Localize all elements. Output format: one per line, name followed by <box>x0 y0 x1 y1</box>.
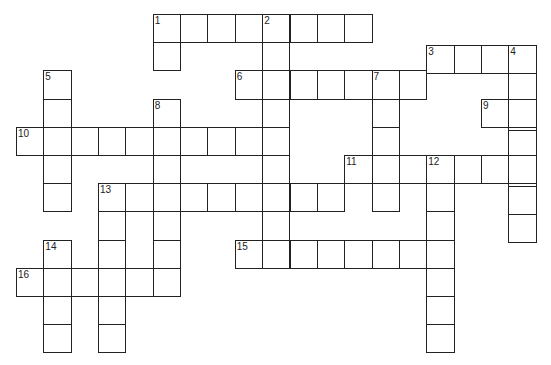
crossword-cell[interactable] <box>98 211 126 240</box>
crossword-cell[interactable] <box>98 127 126 156</box>
clue-number: 12 <box>428 156 439 168</box>
clue-number: 5 <box>45 71 51 83</box>
crossword-cell[interactable] <box>372 240 400 269</box>
clue-number: 8 <box>155 100 161 112</box>
clue-number: 6 <box>237 71 243 83</box>
clue-number: 16 <box>18 269 29 281</box>
crossword-cell[interactable] <box>235 183 263 212</box>
crossword-cell[interactable] <box>426 211 454 240</box>
clue-number: 11 <box>346 156 356 168</box>
crossword-cell[interactable] <box>207 183 235 212</box>
crossword-cell[interactable] <box>399 70 427 99</box>
crossword-cell[interactable] <box>372 99 400 128</box>
crossword-cell[interactable] <box>426 324 454 353</box>
crossword-cell[interactable] <box>454 155 482 184</box>
crossword-cell[interactable] <box>426 296 454 325</box>
crossword-cell[interactable] <box>262 240 290 269</box>
crossword-cell[interactable] <box>43 268 71 297</box>
crossword-cell[interactable] <box>125 183 153 212</box>
crossword-cell[interactable] <box>125 127 153 156</box>
clue-number: 3 <box>428 46 434 58</box>
crossword-cell[interactable] <box>262 99 290 128</box>
crossword-cell[interactable] <box>426 183 454 212</box>
crossword-cell[interactable] <box>98 268 126 297</box>
crossword-cell[interactable] <box>344 70 372 99</box>
crossword-cell[interactable] <box>43 127 71 156</box>
crossword-cell[interactable] <box>71 127 99 156</box>
crossword-cell[interactable] <box>317 14 345 43</box>
crossword-cell[interactable] <box>262 211 290 240</box>
crossword-cell[interactable] <box>454 45 482 74</box>
crossword-cell[interactable] <box>98 324 126 353</box>
crossword-cell[interactable] <box>71 268 99 297</box>
crossword-cell[interactable] <box>43 296 71 325</box>
crossword-cell[interactable] <box>372 155 400 184</box>
crossword-cell[interactable] <box>153 268 181 297</box>
crossword-cell[interactable] <box>508 155 536 184</box>
crossword-cell[interactable] <box>153 183 181 212</box>
crossword-cell[interactable] <box>207 14 235 43</box>
crossword-cell[interactable] <box>262 70 290 99</box>
crossword-cell[interactable] <box>43 183 71 212</box>
crossword-cell[interactable] <box>153 155 181 184</box>
crossword-cell[interactable] <box>180 183 208 212</box>
crossword-cell[interactable] <box>153 211 181 240</box>
crossword-cell[interactable] <box>508 186 536 215</box>
clue-number: 1 <box>155 15 161 27</box>
crossword-cell[interactable] <box>235 14 263 43</box>
crossword-cell[interactable] <box>290 240 318 269</box>
crossword-cell[interactable] <box>372 127 400 156</box>
crossword-cell[interactable] <box>180 127 208 156</box>
crossword-cell[interactable] <box>262 155 290 184</box>
clue-number: 2 <box>264 15 270 27</box>
crossword-cell[interactable] <box>235 127 263 156</box>
crossword-cell[interactable] <box>290 70 318 99</box>
crossword-cell[interactable] <box>344 240 372 269</box>
crossword-cell[interactable] <box>262 127 290 156</box>
crossword-cell[interactable] <box>290 183 318 212</box>
crossword-cell[interactable] <box>153 240 181 269</box>
crossword-cell[interactable] <box>508 214 536 243</box>
crossword-cell[interactable] <box>43 99 71 128</box>
crossword-grid: 12345678910111213141516 <box>0 0 551 365</box>
crossword-cell[interactable] <box>207 127 235 156</box>
crossword-cell[interactable] <box>481 45 509 74</box>
crossword-cell[interactable] <box>98 296 126 325</box>
crossword-cell[interactable] <box>372 183 400 212</box>
crossword-cell[interactable] <box>399 155 427 184</box>
crossword-cell[interactable] <box>317 70 345 99</box>
crossword-cell[interactable] <box>98 240 126 269</box>
clue-number: 10 <box>18 128 29 140</box>
crossword-cell[interactable] <box>262 183 290 212</box>
crossword-cell[interactable] <box>399 240 427 269</box>
clue-number: 13 <box>100 184 111 196</box>
crossword-cell[interactable] <box>125 268 153 297</box>
crossword-cell[interactable] <box>426 240 454 269</box>
crossword-cell[interactable] <box>43 324 71 353</box>
crossword-cell[interactable] <box>43 155 71 184</box>
clue-number: 14 <box>45 241 56 253</box>
crossword-cell[interactable] <box>290 14 318 43</box>
clue-number: 15 <box>237 241 248 253</box>
crossword-cell[interactable] <box>153 42 181 71</box>
crossword-cell[interactable] <box>153 127 181 156</box>
crossword-cell[interactable] <box>180 14 208 43</box>
clue-number: 7 <box>374 71 380 83</box>
crossword-cell[interactable] <box>344 14 372 43</box>
crossword-cell[interactable] <box>262 42 290 71</box>
crossword-cell[interactable] <box>317 240 345 269</box>
clue-number: 4 <box>510 46 516 58</box>
crossword-cell[interactable] <box>317 183 345 212</box>
crossword-cell[interactable] <box>426 268 454 297</box>
crossword-cell[interactable] <box>481 155 509 184</box>
crossword-cell[interactable] <box>508 99 536 128</box>
clue-number: 9 <box>483 100 489 112</box>
